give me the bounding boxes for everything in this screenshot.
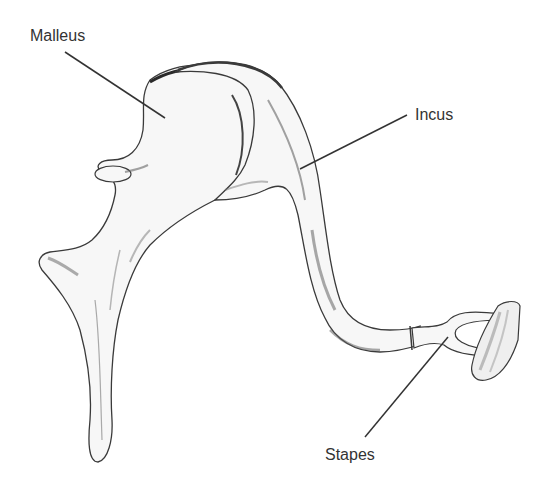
ossicles-diagram: Malleus Incus Stapes <box>0 0 558 484</box>
ossicles-illustration <box>0 0 558 484</box>
stapes-label: Stapes <box>325 446 375 464</box>
malleus-bone <box>39 65 256 462</box>
incus-leader-line <box>300 115 407 169</box>
malleus-label: Malleus <box>30 27 85 45</box>
stapes-bone <box>412 302 520 381</box>
incus-label: Incus <box>415 106 453 124</box>
